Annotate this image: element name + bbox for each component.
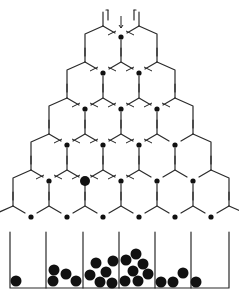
deflector-arms [181,206,205,213]
settled-ball [101,267,112,278]
pin-dot [46,178,51,183]
pin-dot [118,106,123,111]
settled-ball [178,268,189,279]
deflector-arms [145,206,169,213]
settled-ball [95,277,106,288]
deflector-arms [145,134,169,141]
settled-ball [107,278,118,289]
pin-dot [64,142,69,147]
pin-dot [118,178,123,183]
deflector-arms [109,62,133,69]
outer-wall [67,62,85,92]
pin-dot [100,214,105,219]
settled-ball [48,276,59,287]
pin-dot [136,142,141,147]
pin-dot [208,214,213,219]
pin-dot [82,106,87,111]
outer-wall [0,206,13,236]
deflector-arms [127,170,151,177]
pin-dot [154,178,159,183]
settled-ball [120,276,131,287]
settled-ball [156,277,167,288]
settled-ball [11,276,22,287]
settled-ball [61,269,72,280]
pin-dot [100,70,105,75]
settled-ball [108,256,119,267]
deflector-arms [109,134,133,141]
outer-wall [193,134,211,164]
pin-dot [64,214,69,219]
outer-wall [229,206,239,236]
pin-dot [136,214,141,219]
outer-wall [49,98,67,128]
pin-dot [190,178,195,183]
board-walls [0,10,239,236]
settled-ball [128,266,139,277]
falling-ball [80,176,90,186]
settled-balls [11,249,202,289]
outer-wall [31,134,49,164]
settled-ball [143,269,154,280]
deflector-arms [73,206,97,213]
pin-dot [28,214,33,219]
settled-ball [191,277,202,288]
deflector-arms [91,98,115,105]
settled-ball [121,255,132,266]
deflector-arm [217,206,229,213]
settled-ball [71,276,82,287]
settled-ball [85,270,96,281]
outer-wall [157,62,175,92]
settled-ball [49,265,60,276]
settled-ball [91,258,102,269]
deflector-arm [181,134,193,141]
pin-dot [118,34,123,39]
settled-ball [131,249,142,260]
pin-dot [136,70,141,75]
deflector-arms [91,170,115,177]
settled-ball [138,259,149,270]
outer-wall [85,26,103,56]
pin-dot [154,106,159,111]
pin-dot [172,142,177,147]
deflector-arms [37,206,61,213]
settled-ball [133,276,144,287]
deflector-arm [199,170,211,177]
deflector-arms [127,98,151,105]
deflector-arms [163,170,187,177]
outer-wall [139,26,157,56]
outer-wall [13,170,31,200]
deflector-arms [73,134,97,141]
deflector-arms [109,206,133,213]
outer-wall [211,170,229,200]
deflector-arm [13,206,25,213]
pin-dot [100,142,105,147]
galton-board-diagram [0,0,239,297]
settled-ball [168,277,179,288]
pin-dot [172,214,177,219]
deflector-arms [55,170,79,177]
outer-wall [175,98,193,128]
